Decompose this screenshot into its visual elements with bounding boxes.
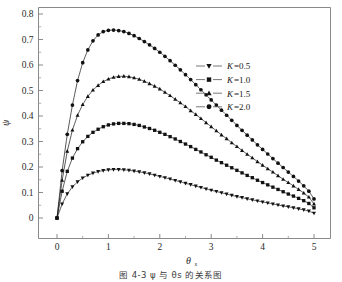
x-tick-label: 4	[260, 242, 265, 252]
data-point-marker	[282, 190, 285, 193]
x-tick-label: 5	[312, 242, 317, 252]
data-point-marker	[215, 158, 218, 161]
data-point-marker	[204, 121, 208, 125]
data-point-marker	[60, 169, 64, 173]
data-point-marker	[297, 179, 301, 183]
data-point-marker	[173, 63, 177, 67]
data-point-marker	[297, 197, 300, 200]
data-point-marker	[194, 83, 198, 87]
x-axis-title: θ	[186, 255, 191, 266]
data-point-marker	[132, 123, 135, 126]
legend-variable: K	[226, 61, 234, 71]
data-point-marker	[214, 103, 218, 107]
legend-marker-triangle-down-icon	[206, 64, 211, 69]
data-point-marker	[86, 48, 90, 52]
data-point-marker	[65, 192, 69, 196]
data-point-marker	[65, 149, 69, 153]
data-point-marker	[81, 176, 85, 180]
series-line	[57, 30, 314, 218]
data-point-marker	[102, 125, 105, 128]
data-point-marker	[178, 101, 182, 105]
data-point-marker	[122, 122, 125, 125]
data-point-marker	[292, 175, 296, 179]
data-point-marker	[287, 192, 290, 195]
data-point-marker	[158, 50, 162, 54]
data-point-marker	[117, 29, 121, 33]
legend-item-k05[interactable]: K=0.5	[196, 61, 251, 71]
data-point-marker	[127, 32, 131, 36]
data-point-marker	[189, 78, 193, 82]
data-point-marker	[220, 161, 223, 164]
data-point-marker	[148, 43, 152, 47]
data-point-marker	[127, 122, 130, 125]
data-point-marker	[132, 34, 136, 38]
data-point-marker	[158, 87, 162, 91]
data-point-marker	[312, 197, 316, 201]
data-point-marker	[81, 61, 85, 65]
y-tick-label: 0.2	[22, 162, 34, 172]
data-point-marker	[286, 180, 290, 184]
data-point-marker	[286, 170, 290, 174]
data-point-marker	[153, 129, 156, 132]
data-point-marker	[112, 122, 115, 125]
data-point-marker	[255, 160, 259, 164]
data-point-marker	[173, 97, 177, 101]
data-point-marker	[246, 174, 249, 177]
data-point-marker	[189, 145, 192, 148]
plot-frame	[39, 8, 331, 239]
data-point-marker	[276, 188, 279, 191]
data-point-marker	[271, 170, 275, 174]
data-point-marker	[76, 147, 79, 150]
data-point-marker	[245, 133, 249, 137]
y-tick-label: 0.6	[22, 60, 34, 70]
x-tick-label: 0	[55, 242, 60, 252]
data-point-marker	[71, 156, 74, 159]
data-point-marker	[266, 167, 270, 171]
data-point-marker	[225, 137, 229, 141]
data-point-marker	[240, 171, 243, 174]
legend-item-k20[interactable]: K=2.0	[196, 102, 251, 112]
data-point-marker	[96, 83, 100, 87]
y-axis-title: ψ	[0, 119, 11, 126]
data-point-marker	[220, 108, 224, 112]
data-point-marker	[199, 88, 203, 92]
data-point-marker	[194, 112, 198, 116]
data-point-marker	[199, 116, 203, 120]
data-point-marker	[66, 170, 69, 173]
data-point-marker	[148, 127, 151, 130]
data-point-marker	[240, 128, 244, 132]
data-point-marker	[302, 199, 305, 202]
data-point-marker	[179, 68, 183, 72]
data-point-marker	[256, 143, 260, 147]
data-point-marker	[184, 73, 188, 77]
data-point-marker	[271, 185, 274, 188]
data-point-marker	[271, 157, 275, 161]
data-point-marker	[153, 84, 157, 88]
data-point-marker	[112, 28, 116, 32]
legend-value: =1.0	[234, 75, 251, 85]
data-point-marker	[55, 216, 59, 220]
data-point-marker	[235, 124, 239, 128]
data-point-marker	[307, 195, 311, 199]
data-point-marker	[245, 152, 249, 156]
data-point-marker	[312, 212, 316, 216]
y-tick-label: 0.3	[22, 137, 34, 147]
legend-marker-square-icon	[207, 77, 211, 81]
series-line	[57, 170, 314, 218]
data-point-marker	[225, 164, 228, 167]
chart-plot: 00.10.20.30.40.50.60.70.8012345θsψ K=0.5…	[0, 0, 342, 282]
data-point-marker	[204, 153, 207, 156]
legend-marker-circle-icon	[207, 104, 212, 109]
data-point-marker	[251, 176, 254, 179]
data-point-marker	[137, 37, 141, 41]
data-point-marker	[158, 131, 161, 134]
legend-marker-triangle-up-icon	[206, 90, 211, 95]
x-tick-label: 3	[209, 242, 214, 252]
legend-variable: K	[226, 75, 234, 85]
data-point-marker	[174, 137, 177, 140]
legend-item-k10[interactable]: K=1.0	[196, 75, 251, 85]
legend-value: =1.5	[234, 89, 251, 99]
data-point-marker	[96, 33, 100, 37]
legend-item-k15[interactable]: K=1.5	[196, 89, 251, 99]
data-point-marker	[281, 177, 285, 181]
